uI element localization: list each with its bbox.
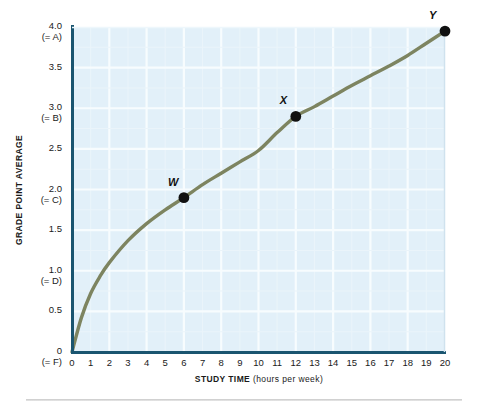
chart-canvas [0, 0, 482, 413]
y-tick-grade: (= D) [18, 275, 62, 286]
y-tick-value: 3.5 [49, 61, 62, 72]
x-axis-title-main: STUDY TIME [195, 374, 250, 384]
y-tick-label-2-0: 2.0(= C) [18, 183, 62, 205]
data-point-x [290, 111, 301, 122]
y-tick-label-0-5: 0.5 [18, 304, 62, 315]
y-tick-label-3-0: 3.0(= B) [18, 101, 62, 123]
y-tick-value: 2.0 [49, 183, 62, 194]
y-tick-label-2-5: 2.5 [18, 142, 62, 153]
data-point-label-w: W [168, 176, 178, 188]
y-tick-grade: (= C) [18, 194, 62, 205]
x-axis-title: STUDY TIME (hours per week) [72, 374, 446, 384]
x-axis-title-units: (hours per week) [253, 374, 323, 384]
chart-figure: GRADE POINT AVERAGE STUDY TIME (hours pe… [0, 0, 482, 413]
y-tick-value: 2.5 [49, 142, 62, 153]
data-point-w [179, 192, 190, 203]
y-tick-value: 0 [57, 345, 62, 356]
y-tick-value: 3.0 [49, 101, 62, 112]
y-tick-label-3-5: 3.5 [18, 61, 62, 72]
data-point-y [440, 26, 451, 37]
y-tick-value: 0.5 [49, 304, 62, 315]
y-tick-label-1-0: 1.0(= D) [18, 264, 62, 286]
y-tick-label-4-0: 4.0(= A) [18, 20, 62, 42]
y-tick-value: 4.0 [49, 20, 62, 31]
y-tick-value: 1.5 [49, 223, 62, 234]
x-tick-label-20: 20 [433, 357, 457, 368]
gridlines [72, 27, 445, 352]
y-tick-grade: (= B) [18, 112, 62, 123]
data-point-label-x: X [280, 94, 287, 106]
data-point-label-y: Y [429, 9, 436, 21]
y-tick-grade: (= A) [18, 31, 62, 42]
y-tick-grade: (= F) [18, 356, 62, 367]
y-tick-label-0: 0(= F) [18, 345, 62, 367]
y-tick-label-1-5: 1.5 [18, 223, 62, 234]
bottom-divider-rule [26, 399, 462, 401]
y-tick-value: 1.0 [49, 264, 62, 275]
